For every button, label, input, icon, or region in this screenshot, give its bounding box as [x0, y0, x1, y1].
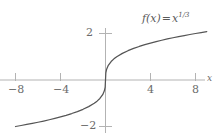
x-tick-label-8: 8 [192, 84, 199, 95]
function-exponent: 1/3 [178, 11, 189, 19]
x-tick-label-4: 4 [147, 84, 154, 95]
x-axis-label: x [207, 74, 212, 83]
function-graph-figure: −8 −4 4 8 2 −2 x f(x)=x1/3 [0, 0, 219, 138]
function-name: f(x) [142, 12, 161, 25]
x-tick-label--4: −4 [53, 84, 69, 95]
function-equation-label: f(x)=x1/3 [142, 12, 190, 24]
function-curve [16, 32, 207, 127]
y-tick-label--2: −2 [80, 120, 96, 131]
x-tick-label--8: −8 [8, 84, 24, 95]
equals-sign: = [161, 12, 172, 25]
y-tick-label-2: 2 [86, 27, 93, 38]
